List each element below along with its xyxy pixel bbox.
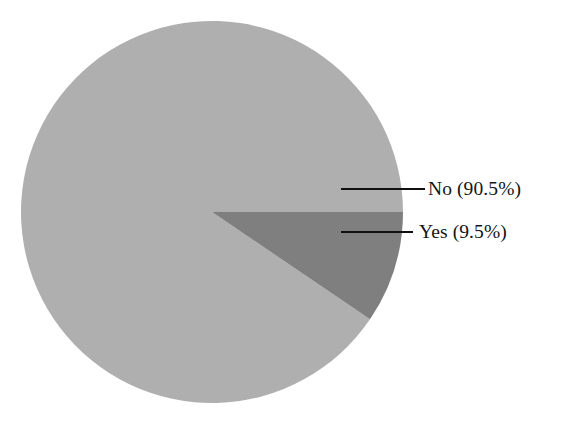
pie-label-no: No (90.5%) [428, 179, 521, 199]
pie-chart-canvas [0, 0, 568, 429]
pie-slice-no[interactable] [21, 21, 403, 403]
pie-label-yes: Yes (9.5%) [419, 222, 507, 242]
pie-chart-figure: No (90.5%) Yes (9.5%) [0, 0, 568, 429]
